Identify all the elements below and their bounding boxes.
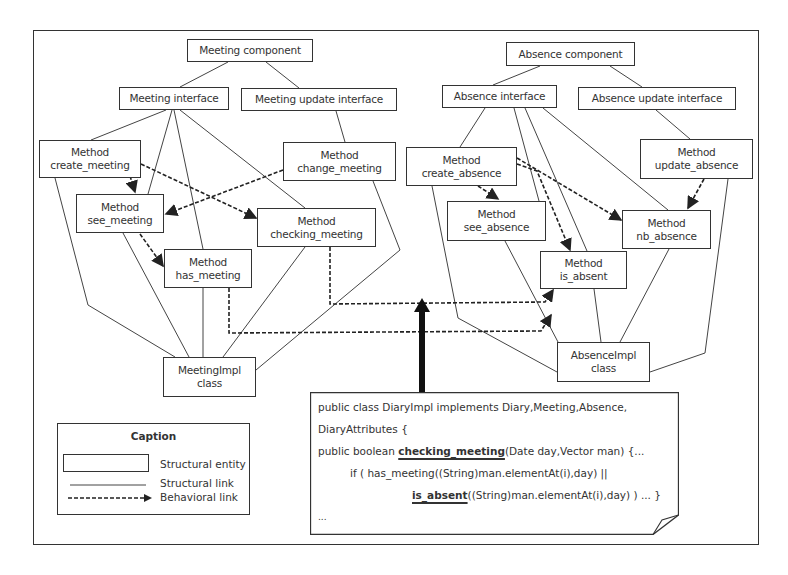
node-label: Meeting component: [199, 44, 301, 57]
code-text: (Date day,Vector man) {...: [505, 445, 644, 457]
node-label: Method: [71, 146, 109, 159]
method-ref-checking-meeting: checking_meeting: [398, 445, 505, 457]
code-line-3: public boolean checking_meeting(Date day…: [318, 445, 644, 457]
node-label: AbsenceImpl: [571, 349, 636, 362]
code-line-2: DiaryAttributes {: [318, 423, 408, 435]
code-text: public boolean: [318, 445, 398, 457]
code-line-5: is_absent((String)man.elementAt(i),day) …: [412, 489, 661, 501]
method-see-meeting: Methodsee_meeting: [76, 194, 164, 233]
node-label: see_absence: [464, 221, 529, 234]
node-label: Method: [477, 208, 515, 221]
legend-behavioral-link-label: Behavioral link: [160, 491, 238, 503]
node-label: Meeting interface: [129, 92, 218, 105]
note-outline: [310, 392, 679, 535]
absence-interface: Absence interface: [442, 85, 557, 108]
method-create-meeting: Methodcreate_meeting: [39, 140, 141, 178]
node-label: Method: [564, 257, 602, 270]
node-label: Method: [677, 146, 715, 159]
code-line-6: ...: [318, 512, 327, 522]
node-label: nb_absence: [636, 230, 697, 243]
code-text: ((String)man.elementAt(i),day) ) ... }: [468, 489, 661, 501]
node-label: change_meeting: [297, 162, 382, 175]
node-label: Method: [442, 154, 480, 167]
node-label: MeetingImpl: [178, 364, 241, 377]
node-label: Method: [189, 256, 227, 269]
node-label: is_absent: [560, 270, 608, 283]
node-label: class: [591, 362, 616, 375]
absence-component: Absence component: [506, 42, 635, 66]
method-update-absence: Methodupdate_absence: [640, 139, 753, 179]
meeting-update-interface: Meeting update interface: [241, 88, 397, 111]
node-label: Method: [297, 215, 335, 228]
code-note: public class DiaryImpl implements Diary,…: [310, 392, 679, 535]
method-nb-absence: Methodnb_absence: [622, 210, 711, 249]
node-label: checking_meeting: [270, 228, 363, 241]
method-has-meeting: Methodhas_meeting: [164, 249, 252, 288]
node-label: class: [197, 377, 222, 390]
node-label: Method: [101, 201, 139, 214]
reference-arrow: [414, 298, 430, 392]
node-label: Absence component: [518, 48, 622, 61]
method-create-absence: Methodcreate_absence: [406, 147, 517, 186]
meeting-component: Meeting component: [187, 39, 313, 62]
absenceimpl-class: AbsenceImplclass: [557, 342, 650, 382]
node-label: Method: [320, 149, 358, 162]
absence-update-interface: Absence update interface: [578, 87, 736, 110]
method-ref-is-absent: is_absent: [412, 489, 468, 501]
node-label: Absence update interface: [592, 92, 722, 105]
method-checking-meeting: Methodchecking_meeting: [257, 208, 376, 247]
node-label: has_meeting: [175, 269, 240, 282]
method-change-meeting: Methodchange_meeting: [283, 142, 396, 181]
legend: Caption Structural entity Structural lin…: [57, 423, 250, 515]
meeting-interface: Meeting interface: [119, 87, 229, 110]
legend-structural-link-label: Structural link: [160, 477, 234, 489]
code-line-4: if ( has_meeting((String)man.elementAt(i…: [350, 467, 608, 479]
meetingimpl-class: MeetingImplclass: [163, 357, 256, 397]
node-label: Method: [647, 217, 685, 230]
method-see-absence: Methodsee_absence: [447, 201, 546, 241]
node-label: see_meeting: [88, 214, 153, 227]
code-line-1: public class DiaryImpl implements Diary,…: [318, 401, 627, 413]
node-label: Meeting update interface: [255, 93, 383, 106]
node-label: update_absence: [655, 159, 738, 172]
node-label: Absence interface: [454, 90, 545, 103]
method-is-absent: Methodis_absent: [540, 251, 627, 289]
node-label: create_absence: [422, 167, 502, 180]
node-label: create_meeting: [50, 159, 129, 172]
